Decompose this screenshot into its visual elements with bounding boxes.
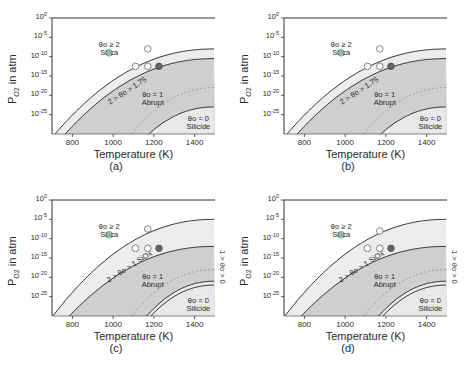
y-tick-label: 10-10	[251, 51, 279, 60]
y-tick-label: 100	[19, 194, 47, 203]
abrupt-label: θo = 1Abrupt	[142, 273, 164, 289]
chart-panel-c: 10010-510-1010-1510-2010-258001000120014…	[0, 182, 232, 364]
silica-label: θo ≥ 2Silica	[331, 41, 352, 57]
panel-caption: (a)	[0, 160, 232, 172]
chart-panel-b: 10010-510-1010-1510-2010-258001000120014…	[232, 0, 464, 182]
silicide-label: θo = 0Silicide	[186, 297, 210, 313]
y-tick-label: 10-5	[19, 213, 47, 222]
y-tick-label: 10-25	[251, 109, 279, 118]
y-tick-label: 10-10	[19, 233, 47, 242]
y-tick-label: 10-10	[19, 51, 47, 60]
silica-label: θo ≥ 2Silica	[99, 223, 120, 239]
x-tick-label: 1200	[139, 320, 169, 329]
y-tick-label: 10-25	[251, 291, 279, 300]
x-tick-label: 1200	[371, 320, 401, 329]
y-tick-label: 10-15	[19, 252, 47, 261]
panel-caption: (c)	[0, 342, 232, 354]
y-tick-label: 10-20	[19, 89, 47, 98]
abrupt-label: θo = 1Abrupt	[374, 273, 396, 289]
y-tick-label: 10-5	[251, 31, 279, 40]
y-tick-label: 10-10	[251, 233, 279, 242]
y-tick-label: 10-20	[251, 89, 279, 98]
x-axis-label: Temperature (K)	[266, 330, 465, 342]
y-tick-label: 10-15	[19, 70, 47, 79]
x-tick-label: 800	[57, 138, 87, 147]
x-tick-label: 1000	[98, 138, 128, 147]
silica-label: θo ≥ 2Silica	[331, 223, 352, 239]
x-tick-label: 1000	[98, 320, 128, 329]
abrupt-label: θo = 1Abrupt	[142, 91, 164, 107]
y-tick-label: 10-20	[251, 271, 279, 280]
x-tick-label: 1400	[180, 138, 210, 147]
x-axis-label: Temperature (K)	[34, 148, 234, 160]
x-tick-label: 1200	[371, 138, 401, 147]
y-axis-label: PO2 in atm	[238, 54, 252, 104]
silicide-label: θo = 0Silicide	[418, 297, 442, 313]
y-tick-label: 100	[251, 194, 279, 203]
abrupt-label: θo = 1Abrupt	[374, 91, 396, 107]
y-tick-label: 10-15	[251, 70, 279, 79]
x-tick-label: 800	[289, 320, 319, 329]
chart-panel-d: 10010-510-1010-1510-2010-258001000120014…	[232, 182, 464, 364]
transition-label: 1 > θo > 0	[218, 250, 227, 284]
y-tick-label: 10-25	[19, 109, 47, 118]
y-tick-label: 10-5	[251, 213, 279, 222]
x-tick-label: 1200	[139, 138, 169, 147]
x-axis-label: Temperature (K)	[266, 148, 465, 160]
panel-caption: (d)	[232, 342, 464, 354]
x-tick-label: 1400	[180, 320, 210, 329]
y-axis-label: PO2 in atm	[6, 236, 20, 286]
y-tick-label: 10-15	[251, 252, 279, 261]
chart-panel-a: 10010-510-1010-1510-2010-258001000120014…	[0, 0, 232, 182]
transition-label: 1 > θo > 0	[450, 250, 459, 284]
x-tick-label: 1400	[412, 138, 442, 147]
y-axis-label: PO2 in atm	[6, 54, 20, 104]
y-tick-label: 10-25	[19, 291, 47, 300]
x-tick-label: 800	[289, 138, 319, 147]
x-tick-label: 1000	[330, 320, 360, 329]
x-tick-label: 800	[57, 320, 87, 329]
y-axis-label: PO2 in atm	[238, 236, 252, 286]
silicide-label: θo = 0Silicide	[418, 115, 442, 131]
x-tick-label: 1000	[330, 138, 360, 147]
panel-caption: (b)	[232, 160, 464, 172]
silicide-label: θo = 0Silicide	[186, 115, 210, 131]
silica-label: θo ≥ 2Silica	[99, 41, 120, 57]
y-tick-label: 100	[19, 12, 47, 21]
x-tick-label: 1400	[412, 320, 442, 329]
y-tick-label: 10-20	[19, 271, 47, 280]
x-axis-label: Temperature (K)	[34, 330, 234, 342]
y-tick-label: 100	[251, 12, 279, 21]
y-tick-label: 10-5	[19, 31, 47, 40]
